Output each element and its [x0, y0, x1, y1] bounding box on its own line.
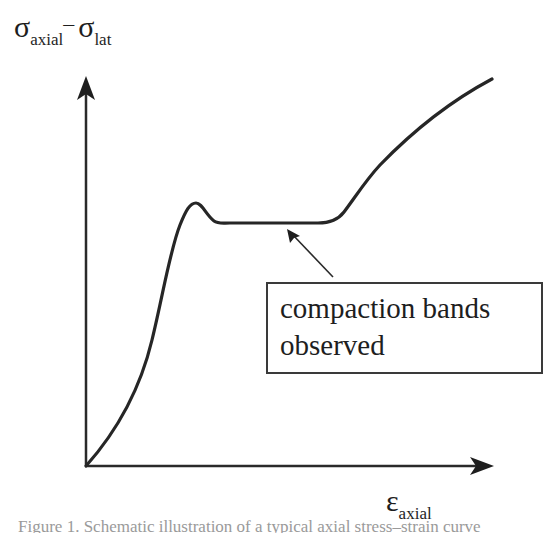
x-axis-label: εaxial: [386, 486, 432, 516]
diagram-canvas: [0, 0, 560, 533]
y-axis-label: σaxial–σlat: [14, 12, 111, 42]
y-symbol-sigma-2: σ: [78, 10, 94, 43]
y-subscript-lat: lat: [94, 30, 111, 49]
y-minus-operator: –: [63, 11, 74, 36]
annotation-line-2: observed: [280, 327, 490, 364]
stress-strain-diagram: σaxial–σlat εaxial compaction bands obse…: [0, 0, 560, 533]
annotation-text: compaction bands observed: [280, 290, 490, 364]
y-symbol-sigma-1: σ: [14, 10, 30, 43]
figure-caption-partial: Figure 1. Schematic illustration of a ty…: [18, 518, 548, 533]
annotation-pointer-line: [292, 234, 333, 277]
x-symbol-epsilon: ε: [386, 484, 399, 517]
stress-strain-curve: [86, 79, 492, 466]
annotation-box: compaction bands observed: [266, 282, 543, 374]
annotation-line-1: compaction bands: [280, 290, 490, 327]
y-subscript-axial: axial: [30, 30, 63, 49]
